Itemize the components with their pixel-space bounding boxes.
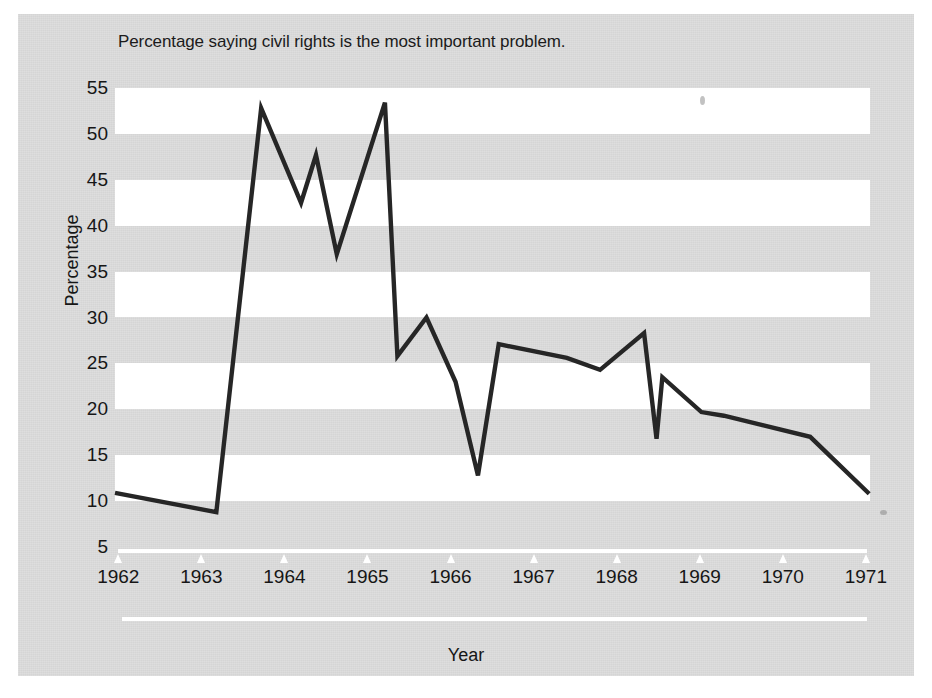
paper-speck-2 bbox=[880, 510, 887, 515]
plot-area bbox=[115, 88, 870, 547]
x-axis-tick-label: 1963 bbox=[166, 566, 236, 588]
x-axis-tick-mark bbox=[696, 554, 704, 563]
y-axis-tick-label: 5 bbox=[64, 536, 108, 558]
x-axis-tick-mark bbox=[862, 554, 870, 563]
figure-root: Percentage saying civil rights is the mo… bbox=[0, 0, 932, 698]
x-axis-tick-label: 1962 bbox=[83, 566, 153, 588]
paper-speck-1 bbox=[700, 96, 705, 105]
data-line-layer bbox=[115, 88, 870, 547]
x-axis-tick-label: 1970 bbox=[748, 566, 818, 588]
x-axis-tick-mark bbox=[114, 554, 122, 563]
x-axis-tick-mark bbox=[197, 554, 205, 563]
x-axis-tick-label: 1969 bbox=[665, 566, 735, 588]
x-axis-tick-mark bbox=[280, 554, 288, 563]
x-axis-tick-label: 1964 bbox=[249, 566, 319, 588]
x-axis-tick-mark bbox=[779, 554, 787, 563]
x-axis-tick-label: 1967 bbox=[499, 566, 569, 588]
y-axis-tick-label: 25 bbox=[64, 352, 108, 374]
x-axis-tick-label: 1965 bbox=[332, 566, 402, 588]
x-axis-tick-mark bbox=[613, 554, 621, 563]
x-axis-tick-mark bbox=[530, 554, 538, 563]
x-axis-tick-mark bbox=[447, 554, 455, 563]
x-axis-tick-label: 1966 bbox=[416, 566, 486, 588]
y-axis-tick-label: 50 bbox=[64, 123, 108, 145]
chart-title: Percentage saying civil rights is the mo… bbox=[118, 32, 565, 52]
x-axis-line bbox=[118, 549, 867, 553]
series-line-civil-rights bbox=[115, 103, 869, 512]
x-axis-tick-label: 1971 bbox=[831, 566, 901, 588]
x-axis-tick-label: 1968 bbox=[582, 566, 652, 588]
y-axis-title: Percentage bbox=[62, 181, 83, 341]
y-axis-tick-label: 20 bbox=[64, 398, 108, 420]
y-axis-tick-label: 10 bbox=[64, 490, 108, 512]
x-axis-secondary-rule bbox=[122, 617, 867, 621]
x-axis-title: Year bbox=[0, 645, 932, 666]
y-axis-tick-label: 55 bbox=[64, 77, 108, 99]
x-axis-tick-mark bbox=[363, 554, 371, 563]
y-axis-tick-label: 15 bbox=[64, 444, 108, 466]
